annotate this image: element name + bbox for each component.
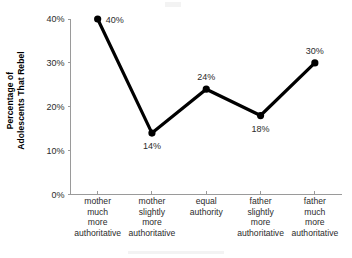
x-category-label-line: father xyxy=(276,196,352,207)
y-tick-label: 20% xyxy=(46,102,64,112)
data-point-marker xyxy=(257,112,264,119)
x-category-label-line: authoritative xyxy=(276,228,352,239)
data-point-marker xyxy=(203,86,210,93)
x-category-label: fathermuchmoreauthoritative xyxy=(276,196,352,238)
data-point-marker xyxy=(311,59,318,66)
chart-figure: Percentage of Adolescents That Rebel 0%1… xyxy=(0,0,352,258)
x-category-label-line: authoritative xyxy=(113,228,191,239)
data-point-marker xyxy=(94,15,101,22)
y-tick-label: 40% xyxy=(46,14,64,24)
y-tick-label: 30% xyxy=(46,58,64,68)
x-category-label-line: more xyxy=(276,217,352,228)
data-point-label: 24% xyxy=(197,72,215,82)
x-category-label-line: much xyxy=(276,207,352,218)
x-axis-category-labels: mothermuchmoreauthoritativemotherslightl… xyxy=(0,196,352,256)
data-point-label: 14% xyxy=(143,141,161,151)
data-point-label: 30% xyxy=(306,46,324,56)
x-category-label-line: more xyxy=(113,217,191,228)
data-point-label: 18% xyxy=(252,124,270,134)
data-point-marker xyxy=(148,129,155,136)
data-point-label: 40% xyxy=(106,15,124,25)
x-axis-ticks xyxy=(98,191,315,195)
y-axis-ticks: 0%10%20%30%40% xyxy=(46,14,70,200)
data-point-labels: 40%14%24%18%30% xyxy=(106,15,324,152)
y-tick-label: 10% xyxy=(46,146,64,156)
